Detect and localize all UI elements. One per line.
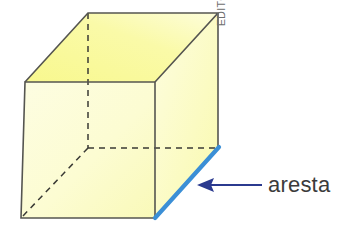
aresta-label: aresta — [268, 170, 330, 200]
editorial-credit: EDITORIA DE ARTE — [212, 0, 230, 26]
aresta-pointer-arrow — [197, 178, 262, 192]
cube-faces — [21, 13, 218, 218]
